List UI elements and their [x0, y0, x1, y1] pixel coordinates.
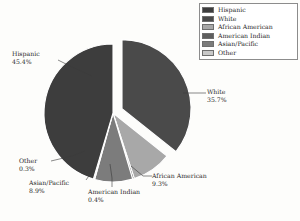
- legend-swatch-white: [202, 16, 214, 22]
- slice-label-african-american-name: African American: [152, 172, 207, 180]
- legend-swatch-african-american: [202, 24, 214, 30]
- slice-label-american-indian-name: American Indian: [88, 188, 140, 196]
- legend-swatch-hispanic: [202, 7, 214, 13]
- legend-swatch-american-indian: [202, 33, 214, 39]
- slice-label-asian-pacific-name: Asian/Pacific: [29, 179, 69, 187]
- slice-label-other-value: 0.3%: [19, 165, 37, 173]
- slice-label-white: White 35.7%: [207, 88, 227, 103]
- slice-label-hispanic-value: 45.4%: [12, 58, 40, 66]
- legend-swatch-asian-pacific: [202, 41, 214, 47]
- legend-swatch-other: [202, 50, 214, 56]
- legend-label-asian-pacific: Asian/Pacific: [218, 40, 258, 49]
- legend-item-white[interactable]: White: [202, 15, 294, 24]
- slice-label-american-indian-value: 0.4%: [88, 196, 140, 204]
- slice-label-american-indian: American Indian 0.4%: [88, 188, 140, 203]
- pie-slice-group: [44, 40, 191, 182]
- slice-label-hispanic-name: Hispanic: [12, 50, 40, 58]
- legend-label-hispanic: Hispanic: [218, 6, 246, 15]
- legend-item-african-american[interactable]: African American: [202, 23, 294, 32]
- slice-label-other: Other 0.3%: [19, 157, 37, 172]
- slice-label-other-name: Other: [19, 157, 37, 165]
- slice-label-asian-pacific: Asian/Pacific 8.9%: [29, 179, 69, 194]
- chart-legend: Hispanic White African American American…: [199, 3, 298, 60]
- slice-label-asian-pacific-value: 8.9%: [29, 187, 69, 195]
- legend-item-hispanic[interactable]: Hispanic: [202, 6, 294, 15]
- legend-label-african-american: African American: [218, 23, 273, 32]
- legend-item-american-indian[interactable]: American Indian: [202, 32, 294, 41]
- chart-canvas: Hispanic White African American American…: [0, 0, 300, 221]
- slice-label-white-value: 35.7%: [207, 96, 227, 104]
- legend-item-other[interactable]: Other: [202, 49, 294, 58]
- slice-label-african-american-value: 9.3%: [152, 180, 207, 188]
- slice-label-african-american: African American 9.3%: [152, 172, 207, 187]
- legend-label-other: Other: [218, 49, 236, 58]
- legend-item-asian-pacific[interactable]: Asian/Pacific: [202, 40, 294, 49]
- slice-label-white-name: White: [207, 88, 227, 96]
- legend-label-american-indian: American Indian: [218, 32, 270, 41]
- legend-label-white: White: [218, 15, 236, 24]
- slice-label-hispanic: Hispanic 45.4%: [12, 50, 40, 65]
